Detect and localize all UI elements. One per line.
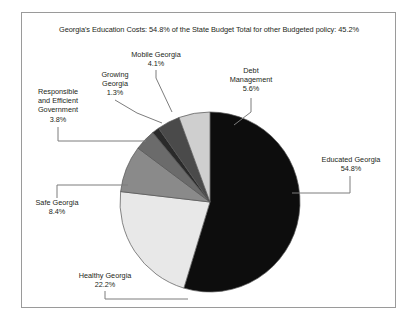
slice-label-responsible-government-name2: and Efficient [22, 96, 94, 105]
slice-label-responsible-government-name1: Responsible [22, 87, 94, 96]
pie-slice-group [120, 112, 300, 292]
slice-label-healthy-georgia: Healthy Georgia 22.2% [58, 271, 152, 289]
slice-label-debt-management: Debt Management 5.6% [215, 66, 287, 94]
slice-label-responsible-government: Responsible and Efficient Government 3.8… [22, 87, 94, 124]
leader-line-healthy-georgia [105, 291, 188, 299]
leader-line-educated-georgia [292, 176, 350, 193]
leader-line-mobile-georgia [156, 70, 172, 112]
leader-line-responsible-government [58, 127, 146, 141]
slice-label-growing-georgia-value: 1.3% [86, 88, 144, 97]
slice-label-growing-georgia-name2: Georgia [86, 79, 144, 88]
leader-line-growing-georgia [115, 100, 162, 123]
slice-label-mobile-georgia-value: 4.1% [121, 59, 191, 68]
slice-label-healthy-georgia-name: Healthy Georgia [58, 271, 152, 280]
slice-label-debt-management-value: 5.6% [215, 84, 287, 93]
slice-label-growing-georgia-name1: Growing [86, 70, 144, 79]
slice-label-educated-georgia-name: Educated Georgia [305, 155, 397, 164]
slice-label-educated-georgia-value: 54.8% [305, 164, 397, 173]
slice-label-safe-georgia: Safe Georgia 8.4% [20, 198, 94, 216]
slice-label-educated-georgia: Educated Georgia 54.8% [305, 155, 397, 173]
slice-label-growing-georgia: Growing Georgia 1.3% [86, 70, 144, 98]
slice-label-responsible-government-value: 3.8% [22, 115, 94, 124]
slice-label-mobile-georgia: Mobile Georgia 4.1% [121, 50, 191, 68]
leader-line-safe-georgia [57, 185, 128, 198]
slice-label-responsible-government-name3: Government [22, 105, 94, 114]
slice-label-safe-georgia-value: 8.4% [20, 207, 94, 216]
slice-label-mobile-georgia-name: Mobile Georgia [121, 50, 191, 59]
slice-label-safe-georgia-name: Safe Georgia [20, 198, 94, 207]
slice-label-debt-management-name2: Management [215, 75, 287, 84]
slice-label-healthy-georgia-value: 22.2% [58, 280, 152, 289]
slice-label-debt-management-name1: Debt [215, 66, 287, 75]
